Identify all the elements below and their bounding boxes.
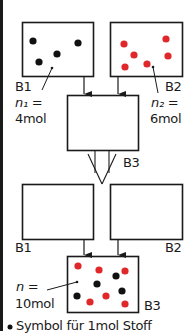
label-n1: n₁ =: [15, 96, 42, 110]
black-particle-icon: [29, 37, 36, 44]
value-n-total: 10mol: [15, 297, 54, 311]
black-particle-icon: [112, 272, 119, 279]
label-n-total: n =: [16, 280, 38, 294]
black-particle-icon: [73, 292, 80, 299]
label-b1-after: B1: [15, 241, 32, 255]
result-pointer-line: [47, 282, 77, 290]
b1-particles: [29, 37, 81, 65]
vessel-b1-before: [23, 23, 94, 77]
red-particle-icon: [121, 300, 128, 307]
label-b2-top: B2: [165, 80, 182, 94]
black-particle-icon: [53, 50, 60, 57]
label-b2-after: B2: [165, 241, 182, 255]
red-particle-icon: [121, 267, 128, 274]
label-b3-mixing: B3: [123, 156, 140, 170]
b2-pointer-line: [153, 67, 158, 93]
red-particle-icon: [130, 51, 137, 58]
vessel-b1-after: [23, 185, 94, 240]
black-particle-icon: [118, 287, 125, 294]
red-particle-icon: [102, 292, 109, 299]
black-particle-icon: [74, 39, 81, 46]
red-particle-icon: [95, 266, 102, 273]
red-particle-icon: [86, 298, 93, 305]
legend-bullet-icon: [8, 325, 13, 330]
vessel-b2-before: [111, 23, 183, 77]
label-b3-result: B3: [144, 299, 161, 313]
vessel-mixing: [68, 96, 139, 151]
b2-particles: [120, 35, 171, 70]
legend-text: Symbol für 1mol Stoff: [16, 319, 152, 333]
value-n2: 6mol: [150, 112, 181, 126]
black-particle-icon: [35, 58, 42, 65]
label-b1-top: B1: [15, 80, 32, 94]
black-particle-icon: [93, 280, 100, 287]
frame-edge: [0, 0, 3, 331]
label-n2: n₂ =: [151, 96, 178, 110]
split-arrow-icon: [88, 150, 116, 184]
red-particle-icon: [74, 262, 81, 269]
vessel-b2-after: [111, 185, 183, 240]
red-particle-icon: [143, 60, 150, 67]
result-particles: [73, 262, 128, 307]
red-particle-icon: [120, 40, 127, 47]
red-particle-icon: [162, 35, 169, 42]
b1-pointer-line: [42, 68, 52, 90]
red-particle-icon: [164, 52, 171, 59]
red-particle-icon: [121, 63, 128, 70]
value-n1: 4mol: [15, 112, 46, 126]
